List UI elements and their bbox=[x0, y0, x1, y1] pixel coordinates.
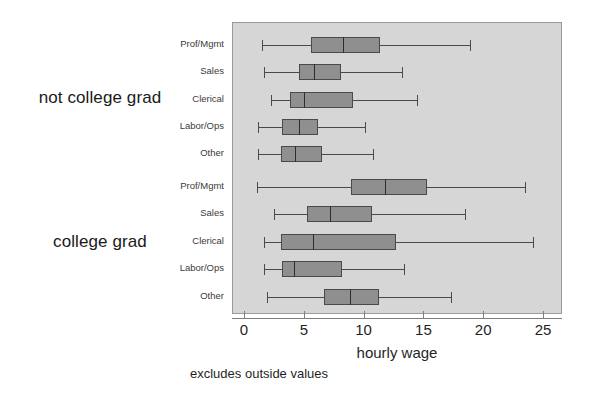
category-label-0-4: Other bbox=[150, 148, 224, 158]
whisker-left bbox=[262, 45, 311, 46]
median-line bbox=[295, 146, 296, 162]
whisker-cap-min bbox=[262, 40, 263, 51]
category-label-1-2: Clerical bbox=[150, 236, 224, 246]
whisker-right bbox=[427, 187, 525, 188]
whisker-right bbox=[372, 214, 465, 215]
x-tick-label-10: 10 bbox=[344, 321, 384, 338]
x-tick-15 bbox=[423, 311, 424, 318]
whisker-cap-max bbox=[365, 122, 366, 133]
whisker-cap-min bbox=[267, 292, 268, 303]
box-labor-ops bbox=[282, 261, 342, 277]
whisker-cap-max bbox=[451, 292, 452, 303]
median-line bbox=[330, 206, 331, 222]
whisker-right bbox=[322, 154, 373, 155]
chart-footnote: excludes outside values bbox=[190, 366, 328, 381]
boxplot-chart: not college grad college grad Prof/MgmtS… bbox=[0, 0, 599, 395]
x-tick-label-15: 15 bbox=[403, 321, 443, 338]
whisker-right bbox=[353, 100, 418, 101]
category-label-1-1: Sales bbox=[150, 208, 224, 218]
whisker-cap-min bbox=[258, 149, 259, 160]
x-tick-label-20: 20 bbox=[463, 321, 503, 338]
median-line bbox=[385, 179, 386, 195]
whisker-left bbox=[257, 187, 351, 188]
box-sales bbox=[307, 206, 372, 222]
plot-area bbox=[232, 22, 562, 314]
whisker-left bbox=[271, 100, 290, 101]
whisker-left bbox=[264, 269, 282, 270]
whisker-right bbox=[380, 45, 470, 46]
whisker-cap-max bbox=[404, 264, 405, 275]
whisker-right bbox=[379, 297, 451, 298]
whisker-cap-max bbox=[470, 40, 471, 51]
x-axis-title: hourly wage bbox=[232, 344, 562, 361]
whisker-left bbox=[264, 242, 281, 243]
box-prof-mgmt bbox=[311, 37, 380, 53]
median-line bbox=[294, 261, 295, 277]
box-other bbox=[281, 146, 322, 162]
whisker-cap-min bbox=[264, 237, 265, 248]
median-line bbox=[299, 119, 300, 135]
x-tick-25 bbox=[543, 311, 544, 318]
whisker-cap-max bbox=[533, 237, 534, 248]
box-sales bbox=[299, 64, 341, 80]
whisker-right bbox=[396, 242, 534, 243]
category-label-0-0: Prof/Mgmt bbox=[150, 39, 224, 49]
whisker-cap-max bbox=[465, 209, 466, 220]
median-line bbox=[314, 64, 315, 80]
whisker-left bbox=[258, 154, 281, 155]
whisker-cap-min bbox=[258, 122, 259, 133]
box-clerical bbox=[290, 92, 352, 108]
category-label-1-3: Labor/Ops bbox=[150, 263, 224, 273]
whisker-left bbox=[274, 214, 307, 215]
category-label-1-0: Prof/Mgmt bbox=[150, 181, 224, 191]
category-label-1-4: Other bbox=[150, 291, 224, 301]
whisker-cap-max bbox=[417, 95, 418, 106]
whisker-cap-max bbox=[525, 182, 526, 193]
whisker-right bbox=[342, 269, 404, 270]
x-tick-0 bbox=[244, 311, 245, 318]
median-line bbox=[343, 37, 344, 53]
whisker-cap-max bbox=[373, 149, 374, 160]
whisker-cap-min bbox=[274, 209, 275, 220]
box-clerical bbox=[281, 234, 396, 250]
box-prof-mgmt bbox=[351, 179, 426, 195]
whisker-cap-min bbox=[264, 264, 265, 275]
median-line bbox=[350, 289, 351, 305]
whisker-left bbox=[267, 297, 324, 298]
x-axis-line bbox=[232, 318, 562, 319]
x-tick-label-0: 0 bbox=[224, 321, 264, 338]
whisker-cap-min bbox=[264, 67, 265, 78]
category-label-0-1: Sales bbox=[150, 66, 224, 76]
whisker-cap-min bbox=[257, 182, 258, 193]
median-line bbox=[304, 92, 305, 108]
x-tick-5 bbox=[304, 311, 305, 318]
whisker-cap-min bbox=[271, 95, 272, 106]
whisker-left bbox=[258, 127, 282, 128]
category-label-0-2: Clerical bbox=[150, 94, 224, 104]
box-labor-ops bbox=[282, 119, 318, 135]
category-label-0-3: Labor/Ops bbox=[150, 121, 224, 131]
x-tick-label-5: 5 bbox=[284, 321, 324, 338]
whisker-right bbox=[341, 72, 402, 73]
x-tick-10 bbox=[364, 311, 365, 318]
whisker-left bbox=[264, 72, 299, 73]
x-tick-20 bbox=[483, 311, 484, 318]
whisker-cap-max bbox=[402, 67, 403, 78]
box-other bbox=[324, 289, 379, 305]
whisker-right bbox=[318, 127, 365, 128]
x-tick-label-25: 25 bbox=[523, 321, 563, 338]
median-line bbox=[313, 234, 314, 250]
